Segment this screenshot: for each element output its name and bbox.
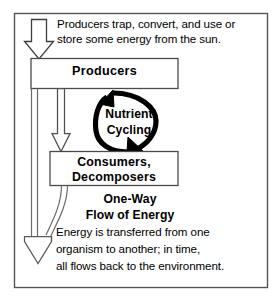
caption-line-2: store some energy from the sun.: [57, 32, 221, 45]
consumers-box-label-line2: Decomposers: [50, 170, 178, 184]
producers-to-consumers-arrow-icon: [52, 89, 70, 152]
consumers-box-label-line1: Consumers,: [50, 155, 178, 169]
energy-loss-arrow-icon: [25, 237, 52, 264]
energy-flow-heading-line1: One-Way: [60, 192, 200, 206]
nutrient-cycle-arc-right: [113, 93, 156, 149]
energy-flow-body-line2: organism to another; in time,: [56, 242, 200, 255]
diagram-graphics: [0, 0, 280, 302]
nutrient-cycling-label-line2: Cycling: [93, 123, 165, 137]
energy-flow-body-line1: Energy is transferred from one: [56, 225, 210, 238]
nutrient-cycling-label-line1: Nutrient: [93, 107, 165, 121]
producers-box-label: Producers: [31, 64, 178, 78]
energy-flow-heading-line2: Flow of Energy: [57, 208, 203, 222]
sun-input-arrow-icon: [25, 20, 54, 60]
energy-flow-body-line3: all flows back to the environment.: [56, 259, 224, 272]
energy-flow-diagram: Producers trap, convert, and use or stor…: [0, 0, 280, 302]
caption-line-1: Producers trap, convert, and use or: [57, 17, 235, 30]
